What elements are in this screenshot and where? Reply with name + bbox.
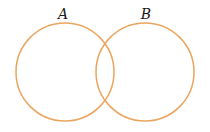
set-b-circle	[96, 23, 194, 121]
venn-diagram: A B	[0, 0, 210, 132]
set-a-label: A	[56, 6, 68, 22]
set-a-circle	[16, 23, 114, 121]
set-b-label: B	[140, 6, 151, 22]
